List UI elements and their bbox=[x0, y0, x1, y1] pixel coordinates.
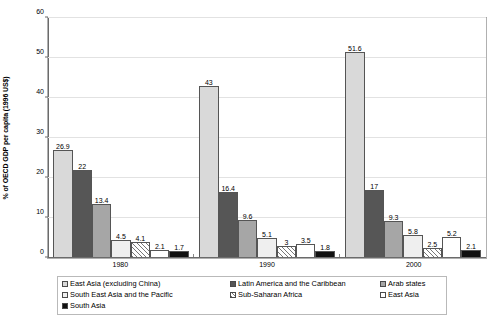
y-axis-tick-label: 0 bbox=[40, 248, 44, 255]
bar-value-label: 5.1 bbox=[262, 231, 272, 238]
y-axis-tick-label: 50 bbox=[36, 48, 44, 55]
legend-swatch bbox=[230, 292, 236, 298]
bar[interactable]: 5.8 bbox=[403, 235, 422, 258]
y-axis-title-text: % of OECD GDP per capita (1996 US$) bbox=[2, 58, 9, 218]
bar-value-label: 16.4 bbox=[221, 185, 235, 192]
legend-swatch bbox=[380, 292, 386, 298]
plot-area: 0102030405060 26.92213.44.54.12.11.74316… bbox=[47, 17, 487, 259]
bar-value-label: 2.1 bbox=[466, 243, 476, 250]
bar[interactable]: 13.4 bbox=[92, 204, 111, 258]
bar-slot: 4.1 bbox=[131, 18, 150, 258]
bar[interactable]: 4.1 bbox=[131, 242, 150, 258]
legend-label: East Asia (excluding China) bbox=[70, 279, 160, 289]
bar-group-bars: 26.92213.44.54.12.11.7 bbox=[53, 18, 189, 258]
bar-slot: 22 bbox=[73, 18, 92, 258]
bar-value-label: 13.4 bbox=[95, 197, 109, 204]
bar[interactable]: 5.2 bbox=[442, 237, 461, 258]
y-axis-tick-label: 30 bbox=[36, 128, 44, 135]
bar-group: 51.6179.35.82.55.22.1 bbox=[340, 18, 486, 258]
bar-value-label: 26.9 bbox=[56, 143, 70, 150]
legend-label: Latin America and the Caribbean bbox=[238, 279, 346, 289]
bar[interactable]: 9.6 bbox=[238, 220, 257, 258]
bar-value-label: 2.5 bbox=[427, 241, 437, 248]
bar-slot: 43 bbox=[199, 18, 218, 258]
bar-slot: 1.8 bbox=[315, 18, 334, 258]
bar[interactable]: 51.6 bbox=[345, 52, 364, 258]
bar[interactable]: 9.3 bbox=[384, 221, 403, 258]
legend-item[interactable]: South Asia bbox=[62, 301, 230, 311]
bar-group: 26.92213.44.54.12.11.7 bbox=[48, 18, 194, 258]
bar[interactable]: 16.4 bbox=[219, 192, 238, 258]
bar-value-label: 4.5 bbox=[116, 233, 126, 240]
y-axis-tick-label: 40 bbox=[36, 88, 44, 95]
legend-item[interactable]: Arab states bbox=[380, 279, 442, 289]
bar-value-label: 9.6 bbox=[243, 213, 253, 220]
legend-label: Sub-Saharan Africa bbox=[238, 290, 302, 300]
chart-container: % of OECD GDP per capita (1996 US$) 0102… bbox=[0, 0, 503, 321]
legend-grid: East Asia (excluding China)Latin America… bbox=[62, 279, 442, 311]
bar-slot: 51.6 bbox=[345, 18, 364, 258]
bar-value-label: 3.5 bbox=[301, 237, 311, 244]
bar-slot: 5.2 bbox=[442, 18, 461, 258]
legend-item[interactable]: East Asia (excluding China) bbox=[62, 279, 230, 289]
bar[interactable]: 3.5 bbox=[296, 244, 315, 258]
bar-value-label: 51.6 bbox=[348, 45, 362, 52]
bar-group-bars: 51.6179.35.82.55.22.1 bbox=[345, 18, 481, 258]
bar-value-label: 1.8 bbox=[320, 244, 330, 251]
bar-value-label: 2.1 bbox=[155, 243, 165, 250]
bar[interactable]: 22 bbox=[73, 170, 92, 258]
bar-value-label: 5.2 bbox=[447, 230, 457, 237]
bar-slot: 17 bbox=[365, 18, 384, 258]
bar-value-label: 43 bbox=[205, 79, 213, 86]
x-axis-tick-label: 1990 bbox=[194, 261, 341, 268]
y-axis-tick-label: 20 bbox=[36, 168, 44, 175]
bar[interactable]: 4.5 bbox=[111, 240, 130, 258]
y-axis-tick-label: 60 bbox=[36, 8, 44, 15]
bar[interactable]: 5.1 bbox=[257, 238, 276, 258]
y-axis-tick-label: 10 bbox=[36, 208, 44, 215]
legend-label: East Asia bbox=[388, 290, 419, 300]
bar-group: 4316.49.65.133.51.8 bbox=[194, 18, 340, 258]
legend-swatch bbox=[62, 303, 68, 309]
bar-slot: 9.3 bbox=[384, 18, 403, 258]
legend-swatch bbox=[230, 281, 236, 287]
bar[interactable]: 17 bbox=[365, 190, 384, 258]
bar-slot: 2.5 bbox=[423, 18, 442, 258]
bar-slot: 4.5 bbox=[111, 18, 130, 258]
bar-slot: 26.9 bbox=[53, 18, 72, 258]
legend-item[interactable]: Latin America and the Caribbean bbox=[230, 279, 380, 289]
bar-value-label: 17 bbox=[370, 183, 378, 190]
legend-swatch bbox=[62, 292, 68, 298]
bar[interactable]: 43 bbox=[199, 86, 218, 258]
bar-slot: 5.8 bbox=[403, 18, 422, 258]
bar-groups: 26.92213.44.54.12.11.74316.49.65.133.51.… bbox=[48, 18, 486, 258]
bar-slot: 3 bbox=[277, 18, 296, 258]
legend-swatch bbox=[380, 281, 386, 287]
bar-value-label: 5.8 bbox=[408, 228, 418, 235]
legend-item[interactable]: East Asia bbox=[380, 290, 442, 300]
bar-value-label: 4.1 bbox=[135, 235, 145, 242]
bar-value-label: 9.3 bbox=[389, 214, 399, 221]
bar-slot: 9.6 bbox=[238, 18, 257, 258]
bar-group-bars: 4316.49.65.133.51.8 bbox=[199, 18, 335, 258]
x-axis-tick-label: 1980 bbox=[47, 261, 194, 268]
legend: East Asia (excluding China)Latin America… bbox=[57, 276, 447, 315]
legend-label: South Asia bbox=[70, 301, 105, 311]
bar-slot: 2.1 bbox=[461, 18, 480, 258]
legend-swatch bbox=[62, 281, 68, 287]
bar-slot: 13.4 bbox=[92, 18, 111, 258]
legend-item[interactable]: Sub-Saharan Africa bbox=[230, 290, 380, 300]
bar-slot: 2.1 bbox=[150, 18, 169, 258]
bar-slot: 5.1 bbox=[257, 18, 276, 258]
bar-value-label: 1.7 bbox=[174, 244, 184, 251]
bar-value-label: 3 bbox=[284, 239, 288, 246]
x-axis-tick-label: 2000 bbox=[340, 261, 487, 268]
y-axis-title: % of OECD GDP per capita (1996 US$) bbox=[2, 0, 9, 58]
bar[interactable]: 26.9 bbox=[53, 150, 72, 258]
legend-item[interactable]: South East Asia and the Pacific bbox=[62, 290, 230, 300]
x-axis-line bbox=[48, 257, 486, 258]
bar-slot: 1.7 bbox=[169, 18, 188, 258]
legend-label: Arab states bbox=[388, 279, 425, 289]
x-axis-labels: 198019902000 bbox=[47, 261, 487, 268]
legend-label: South East Asia and the Pacific bbox=[70, 290, 173, 300]
